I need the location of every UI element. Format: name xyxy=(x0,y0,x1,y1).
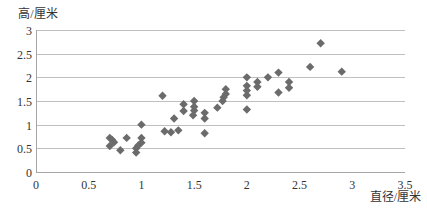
data-point-diamond-icon xyxy=(137,134,145,142)
data-point-diamond-icon xyxy=(285,84,293,92)
y-tick-label: 1 xyxy=(26,119,32,133)
data-point-diamond-icon xyxy=(243,73,251,81)
x-tick-label: 1.5 xyxy=(187,178,202,192)
data-point-diamond-icon xyxy=(274,88,282,96)
x-tick-label: 0 xyxy=(33,178,39,192)
scatter-chart: 00.511.522.53 00.511.522.533.5 高/厘米 直径/厘… xyxy=(0,0,427,212)
y-tick-label: 2.5 xyxy=(17,48,32,62)
data-points xyxy=(106,39,346,157)
x-tick-label: 1 xyxy=(138,178,144,192)
data-point-diamond-icon xyxy=(253,83,261,91)
x-axis-title: 直径/厘米 xyxy=(370,190,421,204)
data-point-diamond-icon xyxy=(274,68,282,76)
x-tick-label: 0.5 xyxy=(81,178,96,192)
data-point-diamond-icon xyxy=(316,39,324,47)
gridlines xyxy=(36,31,405,149)
x-tick-label: 3 xyxy=(349,178,355,192)
x-tick-label: 2 xyxy=(244,178,250,192)
data-point-diamond-icon xyxy=(243,105,251,113)
y-tick-label: 1.5 xyxy=(17,95,32,109)
x-tick-labels: 00.511.522.533.5 xyxy=(33,178,413,192)
data-point-diamond-icon xyxy=(167,128,175,136)
data-point-diamond-icon xyxy=(116,146,124,154)
y-tick-label: 0.5 xyxy=(17,142,32,156)
y-tick-label: 3 xyxy=(26,24,32,38)
data-point-diamond-icon xyxy=(200,129,208,137)
y-axis-title: 高/厘米 xyxy=(18,6,57,21)
data-point-diamond-icon xyxy=(122,134,130,142)
data-point-diamond-icon xyxy=(160,127,168,135)
data-point-diamond-icon xyxy=(137,120,145,128)
data-point-diamond-icon xyxy=(338,67,346,75)
data-point-diamond-icon xyxy=(264,73,272,81)
data-point-diamond-icon xyxy=(306,63,314,71)
data-point-diamond-icon xyxy=(200,114,208,122)
data-point-diamond-icon xyxy=(243,91,251,99)
data-point-diamond-icon xyxy=(213,103,221,111)
data-point-diamond-icon xyxy=(170,114,178,122)
y-tick-label: 0 xyxy=(26,166,32,180)
y-tick-label: 2 xyxy=(26,71,32,85)
data-point-diamond-icon xyxy=(158,92,166,100)
data-point-diamond-icon xyxy=(132,148,140,156)
x-tick-label: 2.5 xyxy=(292,178,307,192)
data-point-diamond-icon xyxy=(174,126,182,134)
y-tick-labels: 00.511.522.53 xyxy=(17,24,32,180)
